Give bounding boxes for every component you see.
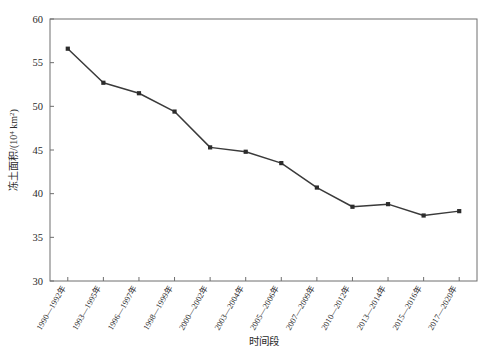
data-point-marker — [315, 185, 319, 189]
data-point-marker — [244, 150, 248, 154]
x-axis-tick-labels: 1990—1992年1993—1995年1996—1997年1998—1999年… — [34, 284, 459, 332]
x-tick-label: 2003—2004年 — [212, 284, 245, 332]
data-point-marker — [101, 81, 105, 85]
x-axis-ticks — [68, 277, 459, 281]
plot-frame — [50, 19, 477, 281]
x-tick-label: 1993—1995年 — [70, 284, 103, 332]
y-axis-title: 冻土面积/(104 km2) — [7, 109, 20, 191]
data-point-marker — [208, 145, 212, 149]
data-point-marker — [350, 205, 354, 209]
y-tick-label: 30 — [33, 276, 44, 287]
data-point-marker — [172, 109, 176, 113]
y-tick-label: 60 — [33, 14, 44, 25]
plot-border — [50, 19, 477, 281]
x-tick-label: 2007—2009年 — [283, 284, 316, 332]
x-tick-label: 2017—2020年 — [426, 284, 459, 332]
data-point-marker — [457, 209, 461, 213]
data-point-marker — [422, 213, 426, 217]
x-tick-label: 1990—1992年 — [34, 284, 67, 332]
chart-canvas: 1990—1992年1993—1995年1996—1997年1998—1999年… — [0, 0, 490, 358]
y-axis-tick-labels: 30354045505560 — [33, 14, 44, 287]
y-tick-label: 40 — [33, 188, 44, 199]
x-axis-title: 时间段 — [249, 335, 280, 347]
y-tick-label: 50 — [33, 101, 44, 112]
x-tick-label: 2015—2016年 — [390, 284, 423, 332]
x-tick-label: 2010—2012年 — [319, 284, 352, 332]
y-tick-label: 35 — [33, 232, 44, 243]
y-tick-label: 45 — [33, 145, 44, 156]
x-tick-label: 2005—2006年 — [248, 284, 281, 332]
data-series — [66, 47, 462, 218]
series-line — [68, 49, 459, 216]
x-tick-label: 2000—2002年 — [176, 284, 209, 332]
data-point-marker — [137, 91, 141, 95]
x-tick-label: 2013—2014年 — [354, 284, 387, 332]
y-tick-label: 55 — [33, 57, 44, 68]
data-point-marker — [386, 202, 390, 206]
y-axis-ticks — [50, 19, 54, 281]
x-tick-label: 1996—1997年 — [105, 284, 138, 332]
x-tick-label: 1998—1999年 — [141, 284, 174, 332]
data-point-marker — [279, 161, 283, 165]
data-point-marker — [66, 47, 70, 51]
permafrost-area-line-chart: 1990—1992年1993—1995年1996—1997年1998—1999年… — [0, 0, 490, 358]
